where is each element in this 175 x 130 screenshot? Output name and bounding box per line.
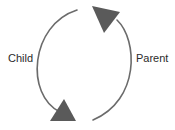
- right-arc: [93, 20, 131, 120]
- cycle-diagram: Child Parent: [0, 0, 175, 130]
- left-arc: [37, 10, 77, 112]
- parent-label: Parent: [136, 52, 168, 64]
- cycle-arrows: [0, 0, 175, 130]
- top-arrowhead-icon: [92, 6, 120, 33]
- child-label: Child: [8, 52, 33, 64]
- bottom-arrowhead-icon: [50, 99, 76, 121]
